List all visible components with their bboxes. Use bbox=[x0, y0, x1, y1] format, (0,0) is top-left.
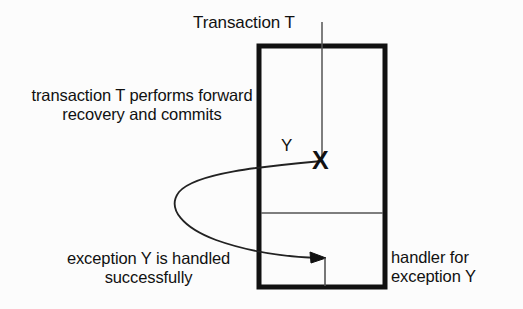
exception-handled-annotation: exception Y is handled successfully bbox=[36, 249, 261, 288]
transaction-title-label: Transaction T bbox=[193, 13, 295, 33]
forward-recovery-annotation: transaction T performs forward recovery … bbox=[28, 86, 256, 125]
exception-y-label: Y bbox=[281, 136, 292, 156]
exception-raise-marker: X bbox=[312, 146, 329, 176]
handler-annotation: handler for exception Y bbox=[391, 248, 521, 287]
